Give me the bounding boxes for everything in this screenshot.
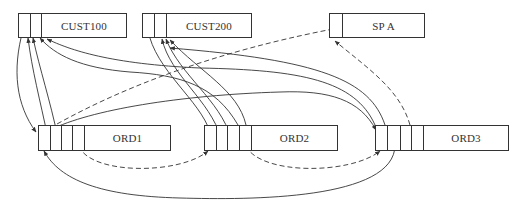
record-cust100: CUST100 <box>18 13 127 38</box>
pointer-cell <box>143 14 155 37</box>
edge-cust200-ord2 <box>148 30 210 132</box>
record-label: ORD1 <box>85 126 170 150</box>
record-ord2: ORD2 <box>204 125 338 151</box>
diagram-canvas: CUST100 CUST200 SP A ORD1 ORD2 ORD3 <box>0 0 524 209</box>
edge-cust100-ord1 <box>17 30 36 132</box>
record-label: SP A <box>343 14 424 37</box>
pointer-cell <box>401 126 412 150</box>
record-label: CUST200 <box>167 14 251 37</box>
pointer-cell <box>240 126 252 150</box>
record-cust200: CUST200 <box>142 13 252 38</box>
pointer-cell <box>155 14 167 37</box>
pointer-cell <box>228 126 240 150</box>
record-ord1: ORD1 <box>38 125 171 151</box>
record-label: CUST100 <box>42 14 126 37</box>
pointer-cell <box>62 126 73 150</box>
record-sp-a: SP A <box>329 13 425 38</box>
pointer-cell <box>388 126 401 150</box>
pointer-cell <box>412 126 424 150</box>
pointer-cell <box>217 126 228 150</box>
pointer-cell <box>51 126 62 150</box>
record-ord3: ORD3 <box>375 125 509 151</box>
pointer-cell <box>376 126 388 150</box>
pointer-cell <box>205 126 217 150</box>
pointer-cell <box>73 126 85 150</box>
record-label: ORD3 <box>424 126 508 150</box>
record-label: ORD2 <box>252 126 337 150</box>
pointer-cell <box>330 14 343 37</box>
pointer-cell <box>39 126 51 150</box>
edge-spa-ord1 <box>43 29 333 132</box>
pointer-cell <box>19 14 31 37</box>
pointer-cell <box>31 14 42 37</box>
